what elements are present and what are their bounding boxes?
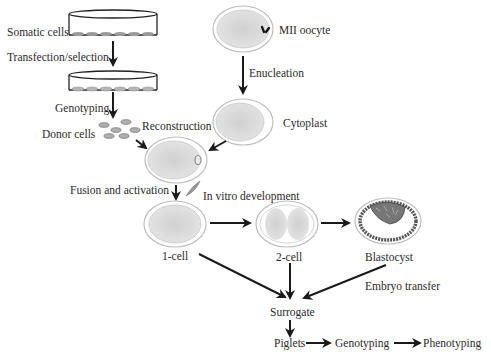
label-phenotyping: Phenotyping (423, 337, 481, 350)
reconstructed-embryo-icon (145, 137, 207, 183)
label-genotyping-top: Genotyping (55, 102, 110, 115)
label-mii-oocyte: MII oocyte (279, 24, 330, 37)
donor-cells-icon (99, 120, 140, 139)
one-cell-embryo-icon (144, 201, 206, 247)
label-embryo-transfer: Embryo transfer (365, 280, 440, 293)
arrow-cytoplast-to-reconstruction (210, 141, 226, 150)
label-surrogate: Surrogate (270, 306, 315, 319)
label-two-cell: 2-cell (276, 251, 302, 263)
blastocyst-icon (355, 198, 421, 244)
label-cytoplast: Cytoplast (283, 117, 328, 130)
two-cell-embryo-icon (256, 201, 318, 247)
arrow-donor-to-reconstruction (136, 140, 146, 148)
arrow-1cell-to-surrogate (199, 254, 285, 297)
label-one-cell: 1-cell (162, 250, 188, 262)
mii-oocyte-icon (213, 6, 273, 52)
label-reconstruction: Reconstruction (142, 120, 212, 132)
label-piglets: Piglets (274, 337, 306, 350)
scnt-diagram: Somatic cells Transfection/selection Gen… (0, 0, 491, 359)
cytoplast-icon (213, 99, 273, 145)
label-genotyping-bottom: Genotyping (335, 337, 390, 350)
label-enucleation: Enucleation (249, 67, 304, 79)
label-somatic-cells: Somatic cells (7, 26, 69, 38)
label-transfection-selection: Transfection/selection (7, 51, 109, 63)
electrode-icon (186, 181, 200, 196)
label-blastocyst: Blastocyst (365, 251, 414, 264)
label-donor-cells: Donor cells (42, 128, 96, 140)
somatic-cells-dish-icon (69, 10, 157, 36)
transfected-cells-dish-icon (69, 71, 157, 91)
label-fusion-activation: Fusion and activation (70, 184, 169, 196)
